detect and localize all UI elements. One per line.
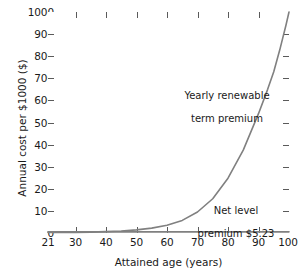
annotation-nlp-line2: premium $5.23 xyxy=(184,228,288,240)
y-tick-right-400 xyxy=(283,145,289,146)
x-tick-top-30 xyxy=(76,12,77,18)
x-tick-30 xyxy=(76,227,77,233)
y-tick-right-900 xyxy=(283,34,289,35)
y-tick-100 xyxy=(48,211,54,212)
x-tick-50 xyxy=(137,227,138,233)
x-tick-label-60: 60 xyxy=(161,236,174,248)
y-tick-right-200 xyxy=(283,189,289,190)
x-tick-40 xyxy=(106,227,107,233)
y-tick-right-300 xyxy=(283,167,289,168)
x-tick-top-80 xyxy=(228,12,229,18)
y-tick-800 xyxy=(48,56,54,57)
y-tick-400 xyxy=(48,145,54,146)
x-tick-top-70 xyxy=(198,12,199,18)
x-tick-label-30: 30 xyxy=(69,236,82,248)
annotation-yrt-line2: term premium xyxy=(168,113,286,125)
annotation-net-level-premium: Net level premium $5.23 xyxy=(184,193,288,251)
x-tick-label-40: 40 xyxy=(99,236,112,248)
y-tick-right-800 xyxy=(283,56,289,57)
annotation-yrt-line1: Yearly renewable xyxy=(168,90,286,102)
x-tick-top-40 xyxy=(106,12,107,18)
x-axis-title: Attained age (years) xyxy=(48,256,289,268)
annotation-nlp-line1: Net level xyxy=(184,205,288,217)
y-tick-700 xyxy=(48,78,54,79)
y-tick-200 xyxy=(48,189,54,190)
y-tick-600 xyxy=(48,100,54,101)
y-tick-500 xyxy=(48,123,54,124)
y-tick-900 xyxy=(48,34,54,35)
x-tick-top-90 xyxy=(259,12,260,18)
x-tick-top-50 xyxy=(137,12,138,18)
x-tick-label-21: 21 xyxy=(41,236,54,248)
y-axis-title: Annual cost per $1000 ($) xyxy=(16,43,28,213)
x-tick-60 xyxy=(167,227,168,233)
x-tick-top-60 xyxy=(167,12,168,18)
annotation-yearly-renewable-term: Yearly renewable term premium xyxy=(168,78,286,136)
x-tick-label-50: 50 xyxy=(130,236,143,248)
chart-container: Annual cost per $1000 ($) 1000 900 800 7… xyxy=(0,0,306,278)
y-tick-300 xyxy=(48,167,54,168)
